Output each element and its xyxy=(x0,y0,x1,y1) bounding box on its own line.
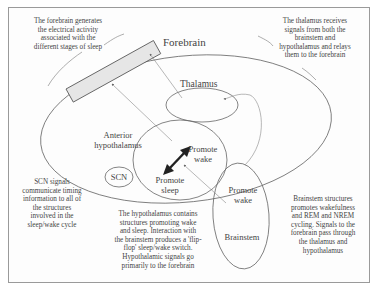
brainstem-annotation-line: hypothalamus xyxy=(278,247,368,256)
anterior-hypothalamus-line1: Anterior xyxy=(78,130,158,140)
thalamus-annotation-line: signals from both the xyxy=(267,26,363,35)
forebrain-annotation-line: The forebrain generates xyxy=(22,17,114,26)
brainstem-annotation-line: forebrain pass through xyxy=(278,229,368,238)
arrow-brainstem-to-hypothalamus xyxy=(184,165,226,203)
brainstem-annotation-line: cycling. Signals to the xyxy=(278,221,368,230)
brainstem-promote-wake-line1: Promote xyxy=(223,185,263,195)
brainstem-promote-wake-line2: wake xyxy=(223,195,263,205)
forebrain-label: Forebrain xyxy=(163,36,206,48)
scn-annotation-line: SCN signals xyxy=(12,178,92,187)
hypothalamus-annotation-line: The hypothalamus contains xyxy=(106,210,210,219)
forebrain-annotation-line: different stages of sleep xyxy=(22,43,114,52)
thalamus-ellipse xyxy=(166,88,238,122)
hypothalamus-annotation-line: the brainstem produces a 'flip- xyxy=(106,236,210,245)
scn-label: SCN xyxy=(108,172,130,182)
scn-annotation-line: information to all of xyxy=(12,195,92,204)
hypothalamus-annotation-line: flop' sleep/wake switch. xyxy=(106,244,210,253)
anterior-hypothalamus-line2: hypothalamus xyxy=(78,140,158,150)
arrow-brainstem-to-thalamus xyxy=(224,94,261,165)
brainstem-promote-wake-label: Promote wake xyxy=(223,185,263,205)
hypothalamus-annotation: The hypothalamus contains structures pro… xyxy=(106,210,210,270)
scn-annotation: SCN signals communicate timing informati… xyxy=(12,178,92,230)
thalamus-annotation-line: hypothalamus and relays xyxy=(267,43,363,52)
leader-forebrain-outline xyxy=(48,52,82,86)
forebrain-annotation-line: the electrical activity xyxy=(22,26,114,35)
scn-annotation-line: the structures xyxy=(12,204,92,213)
scn-annotation-line: sleep/wake cycle xyxy=(12,221,92,230)
forebrain-annotation: The forebrain generates the electrical a… xyxy=(22,17,114,51)
hypothalamus-promote-sleep-line1: Promote xyxy=(150,175,190,185)
brainstem-label: Brainstem xyxy=(220,232,264,242)
brainstem-annotation: Brainstem structures promotes wakefulnes… xyxy=(278,195,368,255)
hypothalamus-promote-wake-line1: Promote xyxy=(183,144,223,154)
scn-annotation-line: communicate timing xyxy=(12,187,92,196)
hypothalamus-promote-sleep-line2: sleep xyxy=(150,185,190,195)
hypothalamus-annotation-line: structures promoting wake xyxy=(106,219,210,228)
thalamus-annotation-line: The thalamus receives xyxy=(267,17,363,26)
hypothalamus-annotation-line: primarily to the forebrain xyxy=(106,262,210,271)
hypothalamus-promote-sleep-label: Promote sleep xyxy=(150,175,190,195)
brainstem-annotation-line: the thalamus and xyxy=(278,238,368,247)
brainstem-ellipse xyxy=(209,161,272,271)
anterior-hypothalamus-label: Anterior hypothalamus xyxy=(78,130,158,150)
hypothalamus-annotation-line: Hypothalamic signals go xyxy=(106,253,210,262)
forebrain-annotation-line: associated with the xyxy=(22,34,114,43)
brainstem-annotation-line: and REM and NREM xyxy=(278,212,368,221)
arrow-thalamus-to-forebrain xyxy=(150,54,182,98)
hypothalamus-promote-wake-line2: wake xyxy=(183,154,223,164)
hypothalamus-annotation-line: and sleep. Interaction with xyxy=(106,227,210,236)
leader-thalamus-outline xyxy=(302,68,316,80)
thalamus-label: Thalamus xyxy=(180,79,217,89)
hypothalamus-promote-wake-label: Promote wake xyxy=(183,144,223,164)
brainstem-annotation-line: promotes wakefulness xyxy=(278,204,368,213)
brainstem-annotation-line: Brainstem structures xyxy=(278,195,368,204)
thalamus-annotation-line: them to the forebrain xyxy=(267,51,363,60)
thalamus-annotation: The thalamus receives signals from both … xyxy=(267,17,363,60)
scn-annotation-line: involved in the xyxy=(12,212,92,221)
thalamus-annotation-line: brainstem and xyxy=(267,34,363,43)
